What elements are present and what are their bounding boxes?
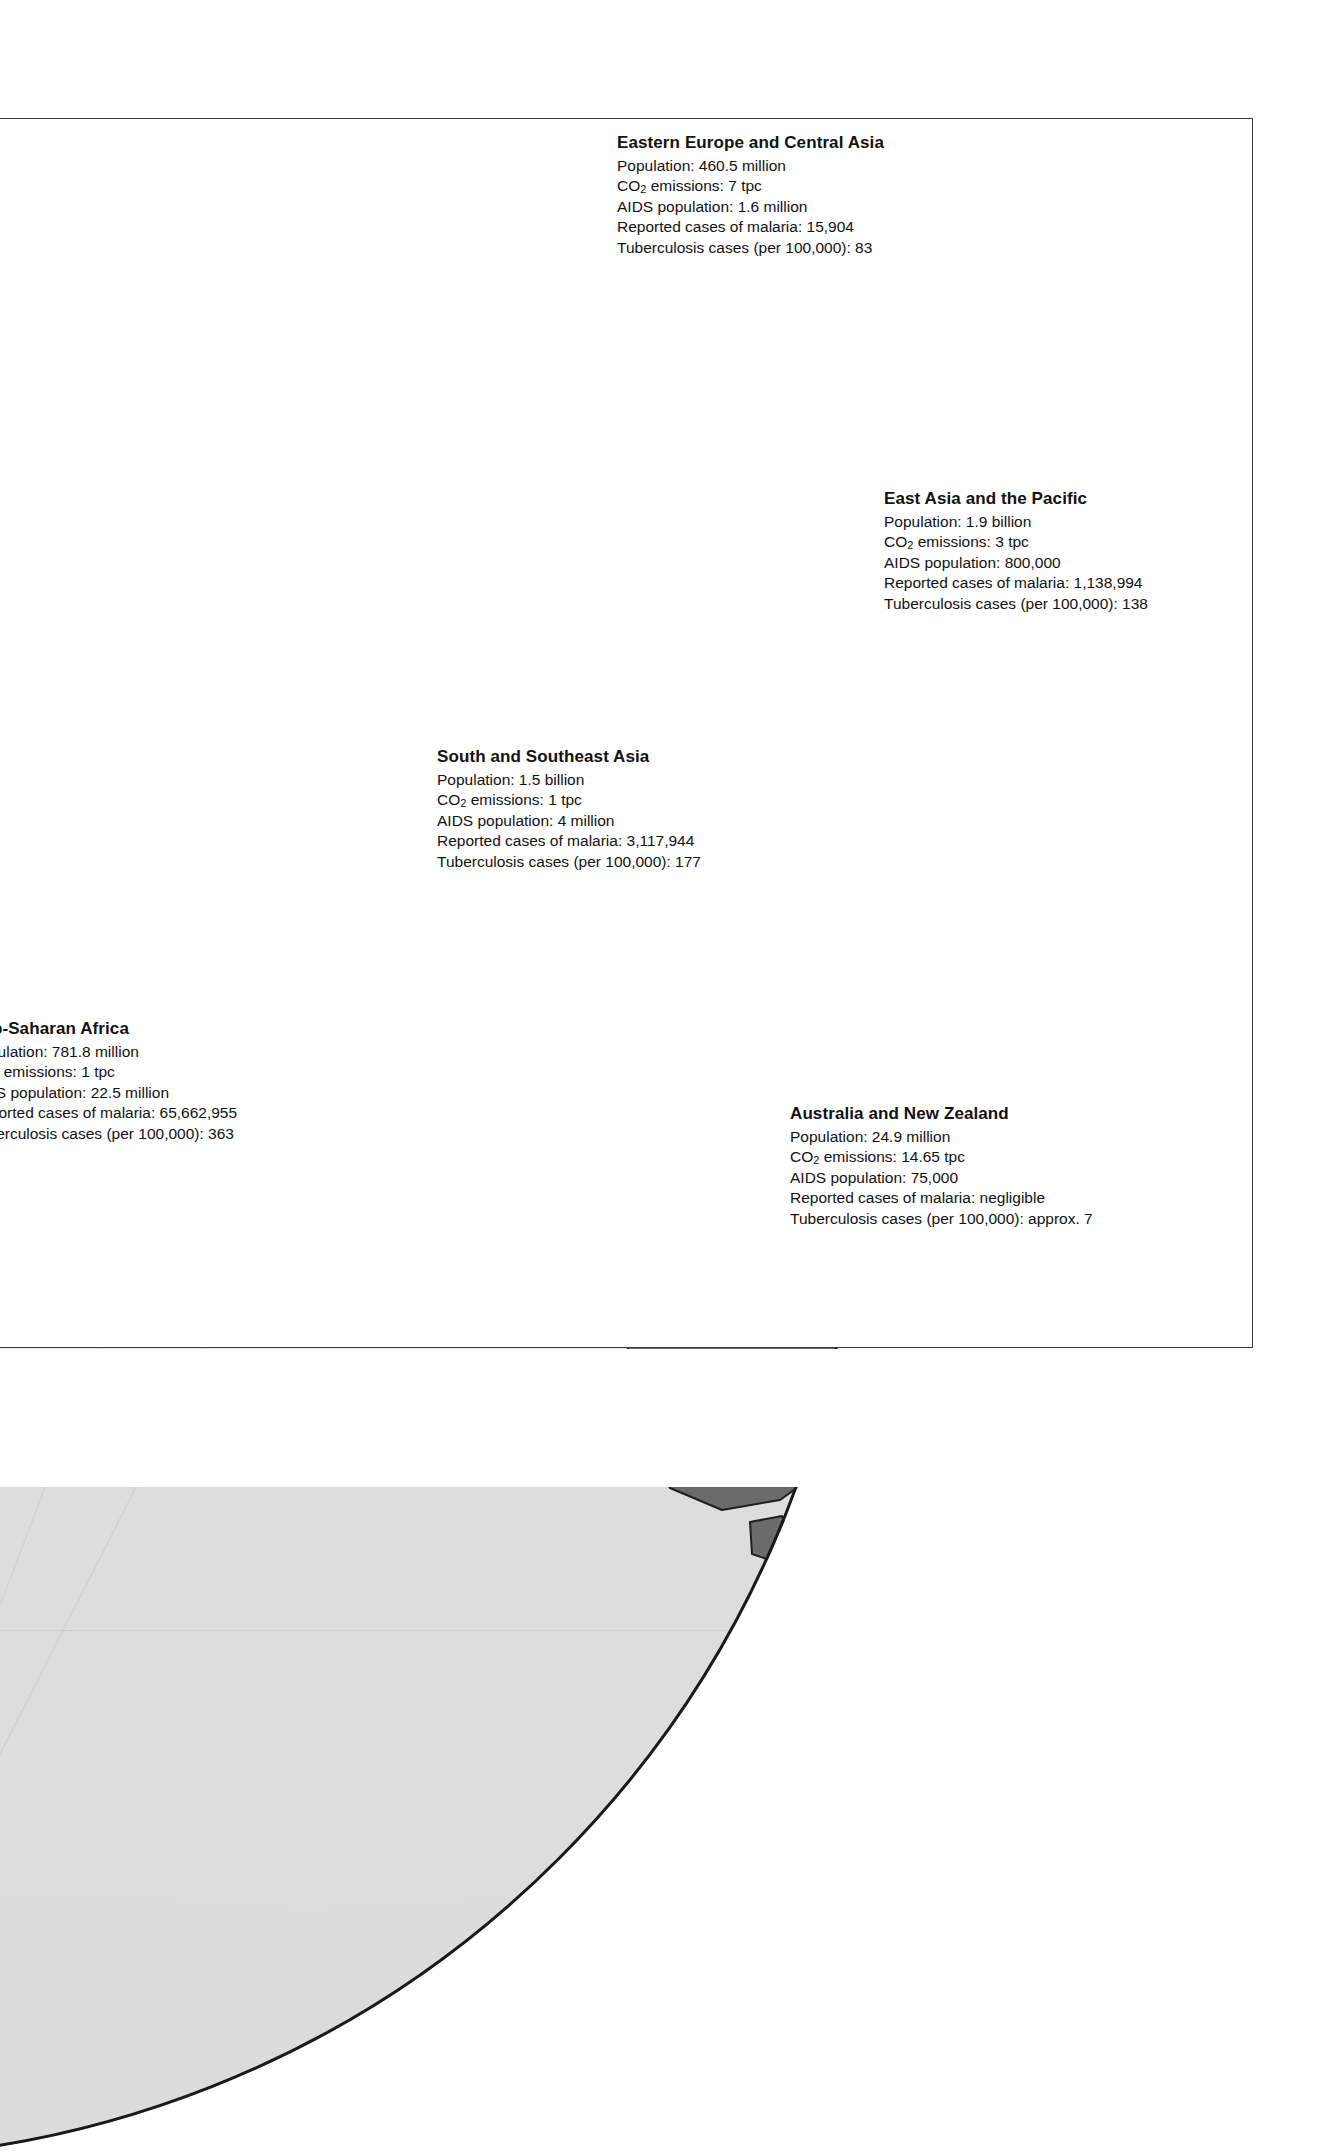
region-label-sub-saharan-africa: Sub-Saharan Africa Population: 781.8 mil…: [0, 1010, 288, 1155]
region-label-tuberculosis: Tuberculosis cases (per 100,000): approx…: [790, 1209, 1119, 1230]
region-label-title: South and Southeast Asia: [437, 746, 711, 769]
region-label-population: Population: 1.5 billion: [437, 770, 711, 791]
region-label-population: Population: 781.8 million: [0, 1042, 274, 1063]
region-label-malaria: Reported cases of malaria: 1,138,994: [884, 573, 1158, 594]
page-margin-right: [1254, 0, 1329, 1487]
region-label-malaria: Reported cases of malaria: 65,662,955: [0, 1103, 274, 1124]
region-label-tuberculosis: Tuberculosis cases (per 100,000): 83: [617, 238, 903, 259]
region-label-malaria: Reported cases of malaria: negligible: [790, 1188, 1119, 1209]
region-label-co2: CO2 emissions: 1 tpc: [0, 1062, 274, 1083]
region-label-eastern-europe-central-asia: Eastern Europe and Central Asia Populati…: [605, 124, 917, 269]
region-label-co2: CO2 emissions: 3 tpc: [884, 532, 1158, 553]
region-label-population: Population: 1.9 billion: [884, 512, 1158, 533]
region-label-title: Eastern Europe and Central Asia: [617, 132, 903, 155]
land-antarctica: [0, 1890, 860, 2151]
region-label-title: East Asia and the Pacific: [884, 488, 1158, 511]
region-label-australia-new-zealand: Australia and New Zealand Population: 24…: [778, 1095, 1133, 1240]
region-label-malaria: Reported cases of malaria: 3,117,944: [437, 831, 711, 852]
region-label-tuberculosis: Tuberculosis cases (per 100,000): 363: [0, 1124, 274, 1145]
region-label-population: Population: 460.5 million: [617, 156, 903, 177]
region-label-co2: CO2 emissions: 14.65 tpc: [790, 1147, 1119, 1168]
land-tasmania: [750, 1516, 792, 1562]
region-label-east-asia-pacific: East Asia and the Pacific Population: 1.…: [872, 480, 1172, 625]
region-label-south-southeast-asia: South and Southeast Asia Population: 1.5…: [425, 738, 725, 883]
region-label-title: Australia and New Zealand: [790, 1103, 1119, 1126]
page-margin-top: [0, 0, 1329, 119]
region-label-population: Population: 24.9 million: [790, 1127, 1119, 1148]
region-label-aids: AIDS population: 800,000: [884, 553, 1158, 574]
region-label-aids: AIDS population: 1.6 million: [617, 197, 903, 218]
region-label-tuberculosis: Tuberculosis cases (per 100,000): 138: [884, 594, 1158, 615]
page-margin-bottom: [0, 1349, 1329, 1487]
region-label-aids: AIDS population: 75,000: [790, 1168, 1119, 1189]
region-label-aids: AIDS population: 22.5 million: [0, 1083, 274, 1104]
region-label-tuberculosis: Tuberculosis cases (per 100,000): 177: [437, 852, 711, 873]
region-label-title: Sub-Saharan Africa: [0, 1018, 274, 1041]
region-label-malaria: Reported cases of malaria: 15,904: [617, 217, 903, 238]
region-label-co2: CO2 emissions: 1 tpc: [437, 790, 711, 811]
region-label-aids: AIDS population: 4 million: [437, 811, 711, 832]
region-label-co2: CO2 emissions: 7 tpc: [617, 176, 903, 197]
